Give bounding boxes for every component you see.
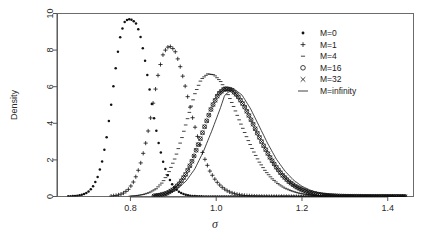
figure-background xyxy=(0,0,423,236)
y-tick-label: 8 xyxy=(45,48,55,53)
y-tick-label: 6 xyxy=(45,84,55,89)
x-tick-label: 1.2 xyxy=(296,203,309,213)
x-tick-label: 1.4 xyxy=(382,203,395,213)
legend-label: M=32 xyxy=(320,74,342,84)
x-tick-label: 0.8 xyxy=(124,203,137,213)
y-tick-label: 2 xyxy=(45,157,55,162)
y-axis-title: Density xyxy=(9,89,19,120)
density-plot-figure: 0246810 0.81.01.21.4 Density σ M=0M=1M=4… xyxy=(0,0,423,236)
legend-label: M=4 xyxy=(320,51,337,61)
y-tick-label: 4 xyxy=(45,121,55,126)
legend-label: M=0 xyxy=(320,28,337,38)
dot-marker-icon xyxy=(302,32,305,35)
y-tick-label: 10 xyxy=(45,8,55,18)
legend-label: M=1 xyxy=(320,40,337,50)
chart-canvas: 0246810 0.81.01.21.4 Density σ M=0M=1M=4… xyxy=(0,0,423,236)
y-tick-label: 0 xyxy=(45,194,55,199)
legend-label: M=16 xyxy=(320,63,342,73)
x-tick-label: 1.0 xyxy=(210,203,223,213)
legend-label: M=infinity xyxy=(320,86,357,96)
